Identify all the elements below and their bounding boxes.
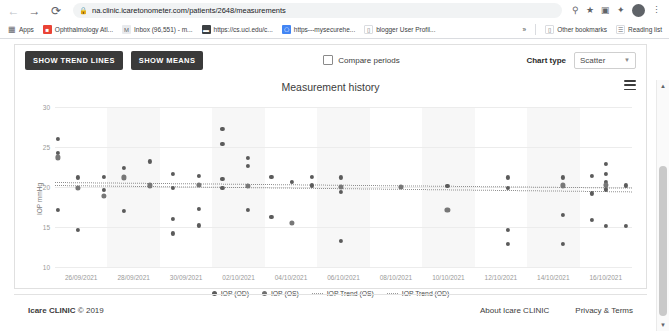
bookmark-label: https://cs.uci.edu/c...: [214, 26, 273, 33]
data-point[interactable]: [56, 137, 60, 141]
gridline: [55, 227, 632, 228]
y-axis-label: IOP mmHg: [36, 183, 43, 215]
x-axis-tick: 06/10/2021: [327, 274, 360, 281]
bookmarks-overflow-button[interactable]: »: [523, 26, 527, 33]
hamburger-menu-icon[interactable]: [624, 80, 636, 90]
x-axis-tick: 14/10/2021: [537, 274, 570, 281]
data-point[interactable]: [101, 193, 106, 198]
data-point[interactable]: [590, 174, 594, 178]
y-axis-tick: 25: [43, 144, 50, 151]
scatter-chart: IOP mmHg 302520151026/09/202128/09/20213…: [21, 99, 640, 299]
reload-icon[interactable]: ⟳: [48, 3, 63, 18]
bookmark-favicon: ■: [43, 25, 52, 34]
data-point[interactable]: [310, 175, 314, 179]
data-point[interactable]: [171, 172, 175, 176]
y-axis-tick: 30: [43, 104, 50, 111]
bookmark-label: blogger User Profil...: [376, 26, 435, 33]
data-point[interactable]: [56, 208, 60, 212]
bookmarks-divider: [535, 24, 536, 35]
kebab-menu-icon[interactable]: ⋮: [652, 6, 661, 15]
reading-list-icon: ☰: [616, 25, 625, 34]
chart-type-control: Chart type Scatter ▼: [526, 52, 636, 69]
footer-copyright: Icare CLINIC © 2019: [28, 306, 104, 315]
data-point[interactable]: [171, 231, 175, 235]
scrollbar-thumb[interactable]: [659, 166, 667, 316]
bookmark-favicon: ▯: [364, 25, 373, 34]
bookmark-mysecurehealth[interactable]: ⎔ https---mysecurehe...: [282, 25, 355, 34]
forward-arrow-icon[interactable]: →: [27, 3, 42, 18]
about-link[interactable]: About Icare CLINIC: [480, 306, 549, 315]
data-point[interactable]: [269, 175, 273, 179]
folder-icon: ▯: [545, 25, 554, 34]
extension-icon[interactable]: ▣: [601, 6, 610, 15]
data-point[interactable]: [76, 228, 80, 232]
back-arrow-icon[interactable]: ←: [6, 3, 21, 18]
reading-list-button[interactable]: ☰ Reading list: [616, 25, 662, 34]
compare-periods-control[interactable]: Compare periods: [323, 55, 399, 65]
x-axis-tick: 26/09/2021: [65, 274, 98, 281]
browser-toolbar: ← → ⟳ 🔒 na.clinic.icaretonometer.com/pat…: [0, 0, 669, 21]
data-point[interactable]: [604, 172, 608, 176]
bookmark-favicon: ⎔: [282, 25, 291, 34]
data-point[interactable]: [102, 175, 106, 179]
gmail-icon: M: [122, 25, 131, 34]
data-point[interactable]: [604, 162, 608, 166]
data-point[interactable]: [171, 186, 175, 190]
bookmark-favicon: ▬: [202, 25, 211, 34]
data-point[interactable]: [269, 215, 273, 219]
other-bookmarks-button[interactable]: ▯ Other bookmarks: [545, 25, 607, 34]
bookmark-inbox[interactable]: M Inbox (96,551) - m...: [122, 25, 193, 34]
bookmark-label: Ophthalmology Atl...: [55, 26, 113, 33]
compare-periods-checkbox[interactable]: [323, 55, 333, 65]
bookmark-csuci[interactable]: ▬ https://cs.uci.edu/c...: [202, 25, 273, 34]
footer-links: About Icare CLINIC Privacy & Terms: [480, 306, 633, 315]
star-icon[interactable]: ★: [586, 6, 594, 15]
overflow-chevron-icon: »: [523, 26, 527, 33]
privacy-link[interactable]: Privacy & Terms: [575, 306, 633, 315]
bookmark-ophthalmology[interactable]: ■ Ophthalmology Atl...: [43, 25, 113, 34]
data-point[interactable]: [590, 191, 594, 195]
data-point[interactable]: [171, 217, 175, 221]
data-point[interactable]: [590, 218, 594, 222]
x-axis-tick: 16/10/2021: [589, 274, 622, 281]
page-viewport: SHOW TREND LINES SHOW MEANS Compare peri…: [0, 40, 669, 331]
gridline: [55, 107, 632, 108]
x-axis-tick: 12/10/2021: [485, 274, 518, 281]
data-point[interactable]: [506, 242, 510, 246]
scroll-up-arrow[interactable]: ▲: [657, 80, 669, 92]
address-bar[interactable]: 🔒 na.clinic.icaretonometer.com/patients/…: [73, 3, 562, 18]
bookmark-label: Apps: [19, 26, 34, 33]
data-point[interactable]: [506, 228, 510, 232]
chart-type-select[interactable]: Scatter ▼: [574, 52, 636, 69]
data-point[interactable]: [76, 175, 80, 179]
other-bookmarks-label: Other bookmarks: [557, 26, 607, 33]
profile-share-icon[interactable]: ✦: [617, 6, 625, 15]
data-point[interactable]: [289, 220, 294, 225]
data-point[interactable]: [197, 174, 201, 178]
y-axis-tick: 15: [43, 224, 50, 231]
data-point[interactable]: [55, 155, 60, 160]
page-content: SHOW TREND LINES SHOW MEANS Compare peri…: [0, 40, 656, 331]
scroll-down-arrow[interactable]: ▼: [657, 319, 669, 331]
data-point[interactable]: [506, 175, 510, 179]
chevron-down-icon: ▼: [624, 57, 630, 63]
bookmark-apps[interactable]: ▦ Apps: [7, 25, 34, 34]
show-means-button[interactable]: SHOW MEANS: [131, 51, 204, 70]
toolbar-icon-group: ⚲ ★ ▣ ✦ G ⋮: [572, 4, 663, 17]
avatar[interactable]: G: [632, 4, 645, 17]
reading-list-label: Reading list: [628, 26, 662, 33]
show-trend-lines-button[interactable]: SHOW TREND LINES: [25, 51, 123, 70]
vertical-scrollbar[interactable]: ▲ ▼: [656, 80, 669, 331]
apps-grid-icon: ▦: [7, 25, 16, 34]
data-point[interactable]: [197, 207, 201, 211]
y-axis-tick: 10: [43, 264, 50, 271]
bookmark-blogger[interactable]: ▯ blogger User Profil...: [364, 25, 435, 34]
data-point[interactable]: [75, 185, 80, 190]
bookmark-label: Inbox (96,551) - m...: [134, 26, 193, 33]
x-axis-tick: 30/09/2021: [170, 274, 203, 281]
key-icon[interactable]: ⚲: [572, 6, 579, 15]
data-point[interactable]: [102, 188, 106, 192]
measurement-history-card: SHOW TREND LINES SHOW MEANS Compare peri…: [14, 44, 647, 289]
plot-area[interactable]: 302520151026/09/202128/09/202130/09/2021…: [55, 107, 632, 267]
x-axis-tick: 08/10/2021: [380, 274, 413, 281]
